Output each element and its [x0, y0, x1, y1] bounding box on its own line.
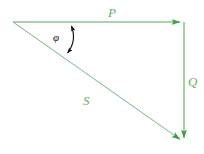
vector-s-label: S [83, 93, 90, 108]
vector-q-label: Q [188, 74, 198, 89]
vector-diagram-figure: P Q S φ [0, 0, 204, 154]
angle-phi-arc [68, 26, 74, 53]
vector-diagram-canvas: P Q S φ [0, 0, 204, 154]
vector-s-line [13, 22, 180, 139]
vector-p-label: P [107, 5, 116, 20]
angle-phi-label: φ [53, 31, 59, 43]
